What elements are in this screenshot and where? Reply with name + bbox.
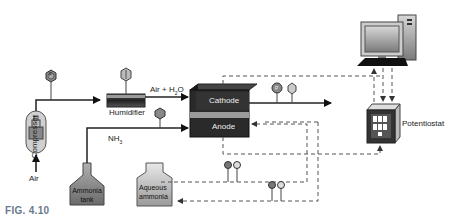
potentiostat-device xyxy=(367,104,400,143)
flow-gauge-icon xyxy=(278,182,285,202)
air-label: Air xyxy=(29,174,39,183)
gauge-label: F xyxy=(49,71,52,77)
computer xyxy=(357,15,416,66)
anode-label: Anode xyxy=(212,122,235,131)
pressure-gauge-icon xyxy=(269,182,276,202)
process-diagram xyxy=(0,0,457,221)
pressure-gauge-icon xyxy=(155,108,165,128)
figure-caption: FIG. 4.10 xyxy=(5,205,49,216)
compressor-label: Compressor xyxy=(30,112,39,162)
nh3-label: NH3 xyxy=(108,134,122,145)
flow-gauge-icon xyxy=(234,162,241,183)
gauge-label: P xyxy=(275,85,278,91)
humidifier xyxy=(107,68,145,107)
flow-gauge-icon xyxy=(288,83,296,103)
cathode-label: Cathode xyxy=(209,96,239,105)
ammonia-tank-label: Ammoniatank xyxy=(72,186,102,204)
air-h2o-label: Air + H2O xyxy=(150,85,184,96)
potentiostat-label: Potentiostat xyxy=(402,119,444,128)
ammonia-feed-line xyxy=(87,128,188,163)
pressure-gauge-icon xyxy=(225,162,232,183)
humidifier-label: Humidifier xyxy=(109,108,145,117)
aqueous-ammonia-label: Aqueousammonia xyxy=(139,183,168,201)
air-feed-line xyxy=(36,100,100,111)
